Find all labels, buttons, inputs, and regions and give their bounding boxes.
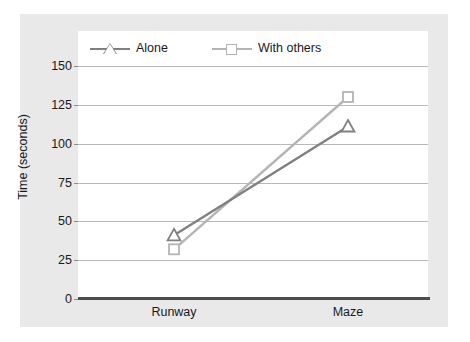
square-open-marker-icon [212,42,252,56]
legend-item-with-others[interactable]: With others [212,42,321,56]
ytick-label-150: 150 [51,60,72,73]
y-axis-tick-labels: 150 125 100 75 50 25 0 [0,66,72,299]
ytick-label-25: 25 [58,254,72,267]
y-axis-title: Time (seconds) [16,97,30,217]
chart-legend: Alone With others [90,38,321,59]
data-point-with-others-maze [343,92,353,102]
ytick-label-0: 0 [65,293,72,306]
data-point-alone-maze [342,120,355,132]
xtick-label-maze: Maze [333,305,364,319]
legend-item-alone[interactable]: Alone [90,42,168,56]
xtick-label-runway: Runway [151,305,196,319]
data-point-with-others-runway [169,244,179,254]
series-line-alone [174,127,348,236]
ytick-label-75: 75 [58,177,72,190]
legend-label-with-others: With others [258,42,321,55]
x-axis-line [78,297,430,300]
chart-figure: Alone With others [0,0,470,342]
series-plot-layer [78,66,428,299]
data-point-alone-runway [168,229,181,241]
triangle-open-marker-icon [90,42,130,56]
legend-label-alone: Alone [136,42,168,55]
ytick-label-125: 125 [51,99,72,112]
ytick-label-50: 50 [58,215,72,228]
ytick-label-100: 100 [51,138,72,151]
series-line-with-others [174,97,348,249]
